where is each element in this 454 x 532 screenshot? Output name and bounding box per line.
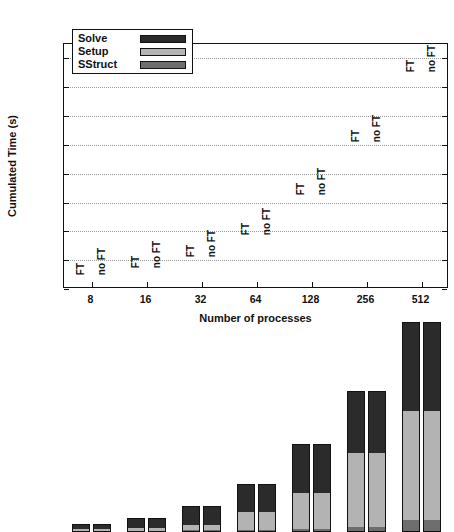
legend-swatch-setup <box>140 48 186 56</box>
plot-area: FTno FTFTno FTFTno FTFTno FTFTno FTFTno … <box>63 43 448 288</box>
legend-item-solve: Solve <box>78 33 186 44</box>
bar-segment-setup <box>313 493 331 528</box>
y-gridline <box>64 260 447 261</box>
bar-segment-setup <box>368 453 386 527</box>
bar-segment-setup <box>127 528 145 531</box>
bar-segment-setup <box>93 529 111 530</box>
x-tick-mark <box>422 282 423 287</box>
x-tick-label: 256 <box>357 293 375 305</box>
y-tick-mark <box>64 231 69 232</box>
x-axis-title: Number of processes <box>63 312 448 324</box>
x-tick-mark <box>312 282 313 287</box>
bar-segment-setup <box>203 525 221 530</box>
bar-segment-solve <box>402 322 420 411</box>
bar-segment-solve <box>423 322 441 411</box>
y-tick-mark <box>64 260 69 261</box>
x-tick-mark <box>367 282 368 287</box>
y-tick-mark <box>64 145 69 146</box>
x-tick-label: 64 <box>250 293 262 305</box>
bar-segment-solve <box>258 484 276 511</box>
bar-annotation-ft: FT <box>351 130 361 142</box>
bar-segment-solve <box>313 444 331 493</box>
bar-segment-setup <box>182 525 200 530</box>
bar-segment-solve <box>292 444 310 493</box>
bar-segment-sstruct <box>313 529 331 532</box>
y-axis-title-container: Cumulated Time (s) <box>2 43 24 288</box>
x-tick-mark <box>202 282 203 287</box>
bar-segment-solve <box>127 518 145 528</box>
y-tick-mark <box>442 145 447 146</box>
bar-segment-solve <box>347 391 365 453</box>
bar-segment-solve <box>182 506 200 525</box>
bar-annotation-ft: FT <box>186 245 196 257</box>
bar-annotation-ft: FT <box>76 263 86 275</box>
bar-annotation-noft: no FT <box>207 230 217 257</box>
x-tick-label: 512 <box>412 293 430 305</box>
y-tick-mark <box>442 58 447 59</box>
bar-segment-sstruct <box>402 520 420 532</box>
legend-label-solve: Solve <box>78 33 130 44</box>
y-gridline <box>64 203 447 204</box>
bar-segment-sstruct <box>347 527 365 532</box>
bar-annotation-noft: no FT <box>317 168 327 195</box>
legend-label-sstruct: SStruct <box>78 59 130 70</box>
bar-segment-setup <box>237 512 255 530</box>
bar-segment-setup <box>258 512 276 530</box>
bar-annotation-ft: FT <box>131 256 141 268</box>
bar-annotation-noft: no FT <box>262 208 272 235</box>
bar-segment-setup <box>148 528 166 531</box>
y-tick-mark <box>442 289 447 290</box>
bar-annotation-ft: FT <box>296 183 306 195</box>
x-tick-label: 128 <box>302 293 320 305</box>
y-gridline <box>64 174 447 175</box>
bar-segment-solve <box>368 391 386 453</box>
y-tick-mark <box>442 116 447 117</box>
bar-segment-sstruct <box>368 527 386 532</box>
bar-annotation-noft: no FT <box>97 248 107 275</box>
chart-legend: Solve Setup SStruct <box>72 29 193 74</box>
bar-annotation-ft: FT <box>241 223 251 235</box>
x-tick-label: 32 <box>195 293 207 305</box>
y-tick-mark <box>442 260 447 261</box>
bar-annotation-ft: FT <box>406 60 416 72</box>
bar-segment-sstruct <box>292 529 310 532</box>
bar-segment-setup <box>423 411 441 521</box>
legend-swatch-sstruct <box>140 61 186 69</box>
y-gridline <box>64 116 447 117</box>
bar-annotation-noft: no FT <box>152 241 162 268</box>
legend-item-sstruct: SStruct <box>78 59 186 70</box>
x-tick-label: 16 <box>140 293 152 305</box>
x-tick-label: 8 <box>88 293 94 305</box>
y-tick-mark <box>442 174 447 175</box>
x-tick-mark <box>92 282 93 287</box>
y-tick-mark <box>64 203 69 204</box>
x-tick-mark <box>147 282 148 287</box>
y-tick-mark <box>64 58 69 59</box>
bar-annotation-noft: no FT <box>372 115 382 142</box>
y-gridline <box>64 231 447 232</box>
bar-segment-solve <box>72 524 90 529</box>
bar-segment-setup <box>292 493 310 528</box>
legend-label-setup: Setup <box>78 46 130 57</box>
y-gridline <box>64 145 447 146</box>
bar-segment-setup <box>402 411 420 521</box>
bar-segment-solve <box>93 524 111 529</box>
y-tick-mark <box>64 174 69 175</box>
bar-annotation-noft: no FT <box>427 45 437 72</box>
bar-segment-solve <box>148 518 166 528</box>
legend-item-setup: Setup <box>78 46 186 57</box>
legend-swatch-solve <box>140 35 186 43</box>
y-tick-mark <box>442 203 447 204</box>
bar-segment-setup <box>347 453 365 527</box>
y-tick-mark <box>64 289 69 290</box>
bar-segment-setup <box>72 529 90 530</box>
y-tick-mark <box>442 87 447 88</box>
y-tick-mark <box>442 231 447 232</box>
x-tick-mark <box>257 282 258 287</box>
y-tick-mark <box>64 87 69 88</box>
bar-segment-sstruct <box>423 520 441 532</box>
bar-segment-solve <box>237 484 255 511</box>
y-axis-title: Cumulated Time (s) <box>6 76 18 256</box>
bar-segment-solve <box>203 506 221 525</box>
